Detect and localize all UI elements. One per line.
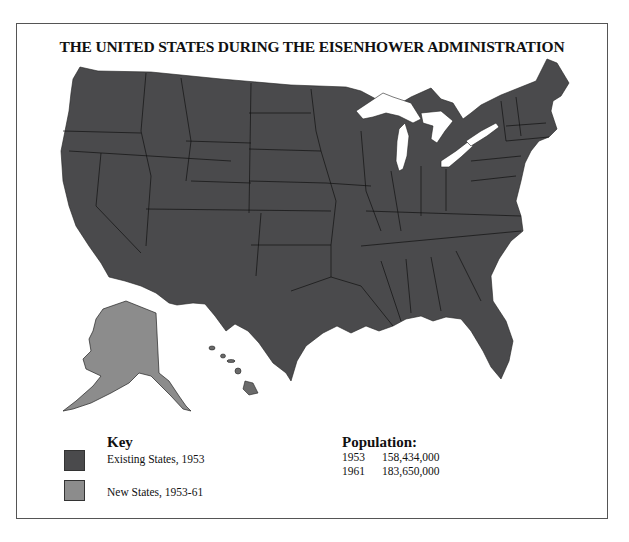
alaska-shape (63, 301, 191, 411)
population-value: 183,650,000 (382, 465, 440, 479)
map-frame: THE UNITED STATES DURING THE EISENHOWER … (16, 23, 608, 519)
population-title: Population: (342, 434, 440, 451)
population-row: 1961 183,650,000 (342, 465, 440, 479)
hawaii (209, 346, 258, 395)
population-panel: Population: 1953 158,434,000 1961 183,65… (342, 434, 440, 479)
us-map (17, 24, 609, 520)
hawaii-island-maui (235, 368, 241, 374)
population-year: 1953 (342, 451, 382, 465)
hawaii-island-kauai (209, 346, 215, 350)
new-states-swatch (64, 480, 85, 501)
hawaii-island-oahu (221, 354, 226, 358)
alaska (63, 301, 191, 411)
hawaii-island-big (243, 381, 258, 395)
existing-states-label: Existing States, 1953 (107, 453, 204, 465)
population-row: 1953 158,434,000 (342, 451, 440, 465)
population-year: 1961 (342, 465, 382, 479)
existing-states-swatch (64, 450, 85, 471)
new-states-label: New States, 1953-61 (107, 486, 203, 498)
key-title: Key (107, 434, 133, 451)
hawaii-island-molokai (227, 360, 235, 363)
population-value: 158,434,000 (382, 451, 440, 465)
